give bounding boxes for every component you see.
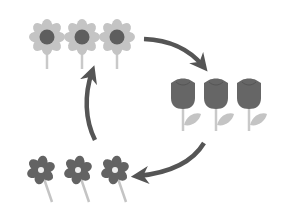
daisy-center xyxy=(38,167,44,173)
tulip-cup xyxy=(171,79,195,110)
daisy-icon xyxy=(63,155,94,202)
sunflower-group xyxy=(29,19,135,69)
tulip-leaf xyxy=(217,113,234,125)
tulip-icon xyxy=(237,79,267,132)
curved-arrow-icon xyxy=(144,39,203,66)
daisy-icon xyxy=(100,155,131,202)
tulip-group xyxy=(171,79,267,132)
daisy-group xyxy=(26,155,131,202)
daisy-icon xyxy=(26,155,57,202)
curved-arrow-icon xyxy=(138,143,204,176)
sunflower-icon xyxy=(64,19,100,69)
sunflower-center xyxy=(75,30,90,45)
tulip-leaf xyxy=(184,113,201,125)
sunflower-center xyxy=(110,30,125,45)
daisy-center xyxy=(112,167,118,173)
tulip-icon xyxy=(204,79,234,132)
flower-cycle-diagram xyxy=(0,0,283,213)
tulip-cup xyxy=(237,79,261,110)
sunflower-center xyxy=(40,30,55,45)
curved-arrow-icon xyxy=(87,72,95,140)
tulip-cup xyxy=(204,79,228,110)
daisy-center xyxy=(75,167,81,173)
tulip-icon xyxy=(171,79,201,132)
tulip-leaf xyxy=(250,113,267,125)
sunflower-icon xyxy=(29,19,65,69)
sunflower-icon xyxy=(99,19,135,69)
